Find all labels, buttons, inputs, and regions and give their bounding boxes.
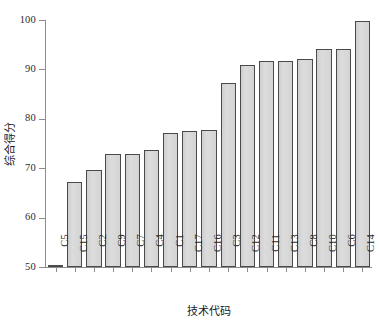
y-axis-tick-label: 70 xyxy=(2,163,36,174)
x-axis-title: 技术代码 xyxy=(46,302,372,318)
y-axis-tick xyxy=(39,119,45,120)
y-axis-tick-label: 50 xyxy=(2,262,36,273)
x-axis-tick-label: C13 xyxy=(290,234,301,274)
bar-series xyxy=(46,20,372,267)
x-axis-tick-label: C11 xyxy=(271,234,282,274)
x-axis-tick-label: C3 xyxy=(232,234,243,274)
x-axis-tick xyxy=(286,268,287,272)
x-axis-tick-label: C10 xyxy=(328,234,339,274)
y-axis-tick xyxy=(39,20,45,21)
x-axis-tick xyxy=(171,268,172,272)
x-axis-tick-label: C12 xyxy=(251,234,262,274)
y-axis-title: 综合得分 xyxy=(1,122,17,166)
x-axis-tick-label: C5 xyxy=(60,234,71,274)
bar-chart: 综合得分 5060708090100 C5C15C2C9C7C4C1C17C16… xyxy=(0,0,380,324)
x-axis-tick xyxy=(209,268,210,272)
x-axis-tick xyxy=(247,268,248,272)
y-axis-tick xyxy=(39,69,45,70)
x-axis-tick-label: C17 xyxy=(194,234,205,274)
x-axis-tick-label: C15 xyxy=(79,234,90,274)
x-axis-tick xyxy=(56,268,57,272)
y-axis-tick xyxy=(39,218,45,219)
x-axis-tick xyxy=(228,268,229,272)
x-axis-tick xyxy=(362,268,363,272)
bar xyxy=(355,21,370,268)
x-axis-tick xyxy=(305,268,306,272)
x-axis-tick xyxy=(94,268,95,272)
x-axis-tick xyxy=(75,268,76,272)
x-axis-tick xyxy=(343,268,344,272)
plot-area xyxy=(46,20,372,267)
y-axis-title-wrap: 综合得分 xyxy=(0,20,18,268)
y-axis-tick-label: 80 xyxy=(2,113,36,124)
x-axis-tick-label: C4 xyxy=(155,234,166,274)
x-axis-tick-label: C9 xyxy=(117,234,128,274)
x-axis-tick-label: C14 xyxy=(366,234,377,274)
y-axis-tick xyxy=(39,267,45,268)
x-axis-tick xyxy=(113,268,114,272)
y-axis-tick-label: 60 xyxy=(2,212,36,223)
x-axis-tick-label: C16 xyxy=(213,234,224,274)
x-axis-tick xyxy=(151,268,152,272)
x-axis-tick-label: C2 xyxy=(98,234,109,274)
y-axis-tick xyxy=(39,168,45,169)
x-axis-tick-label: C1 xyxy=(175,234,186,274)
y-axis-tick-label: 90 xyxy=(2,64,36,75)
y-axis-tick-label: 100 xyxy=(2,15,36,26)
x-axis-tick-label: C6 xyxy=(347,234,358,274)
x-axis-tick xyxy=(190,268,191,272)
x-axis-tick xyxy=(324,268,325,272)
x-axis-tick-label: C7 xyxy=(136,234,147,274)
x-axis-tick xyxy=(132,268,133,272)
x-axis-tick xyxy=(267,268,268,272)
x-axis-tick-label: C8 xyxy=(309,234,320,274)
